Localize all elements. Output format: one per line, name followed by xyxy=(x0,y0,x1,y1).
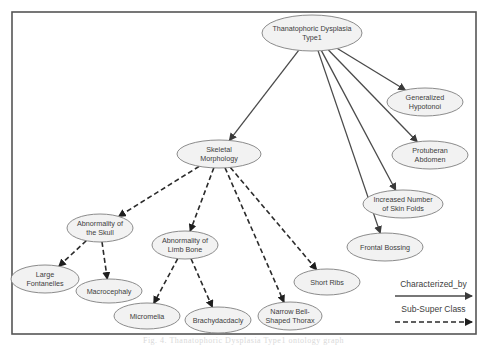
node-label: Micromelia xyxy=(130,312,165,321)
node-label: Brachydacdacly xyxy=(193,316,244,325)
figure-caption: Fig. 4. Thanatophoric Dysplasia Type1 on… xyxy=(0,336,487,345)
node-label: Frontal Bossing xyxy=(360,243,410,252)
node-label: the Skull xyxy=(86,228,114,237)
legend-label: Characterized_by xyxy=(400,279,467,289)
node-hypotonoi: GeneralizedHypotonoi xyxy=(387,88,463,116)
node-shortribs: Short Ribs xyxy=(294,269,360,295)
node-thorax: Narrow Bell-Shaped Thorax xyxy=(258,302,322,330)
node-frontal: Frontal Bossing xyxy=(347,233,423,261)
node-label: Fontanelles xyxy=(26,279,64,288)
node-macrocephaly: Macrocephaly xyxy=(76,279,142,303)
node-skeletal: SkeletalMorphology xyxy=(177,140,261,168)
node-skull: Abnormality ofthe Skull xyxy=(67,214,133,242)
node-abdomen: ProtuberanAbdomen xyxy=(392,141,468,169)
node-label: Type1 xyxy=(302,33,322,42)
node-label: Limb Bone xyxy=(168,245,202,254)
node-label: Macrocephaly xyxy=(87,287,132,296)
node-micromelia: Micromelia xyxy=(114,303,180,329)
node-label: Hypotonoi xyxy=(409,102,442,111)
node-label: of Skin Folds xyxy=(382,204,424,213)
node-limb: Abnormality ofLimb Bone xyxy=(152,231,218,259)
node-label: Abdomen xyxy=(415,155,446,164)
node-fontanelles: LargeFontanelles xyxy=(11,265,79,293)
ontology-diagram: Thanatophoric DysplasiaType1GeneralizedH… xyxy=(0,0,487,345)
node-label: Morphology xyxy=(200,154,238,163)
node-label: Shaped Thorax xyxy=(265,316,314,325)
node-label: Short Ribs xyxy=(310,278,344,287)
node-root: Thanatophoric DysplasiaType1 xyxy=(262,15,362,51)
node-skinfolds: Increased Numberof Skin Folds xyxy=(363,190,443,218)
node-brachydactyly: Brachydacdacly xyxy=(185,307,251,333)
legend-label: Sub-Super Class xyxy=(401,304,465,314)
